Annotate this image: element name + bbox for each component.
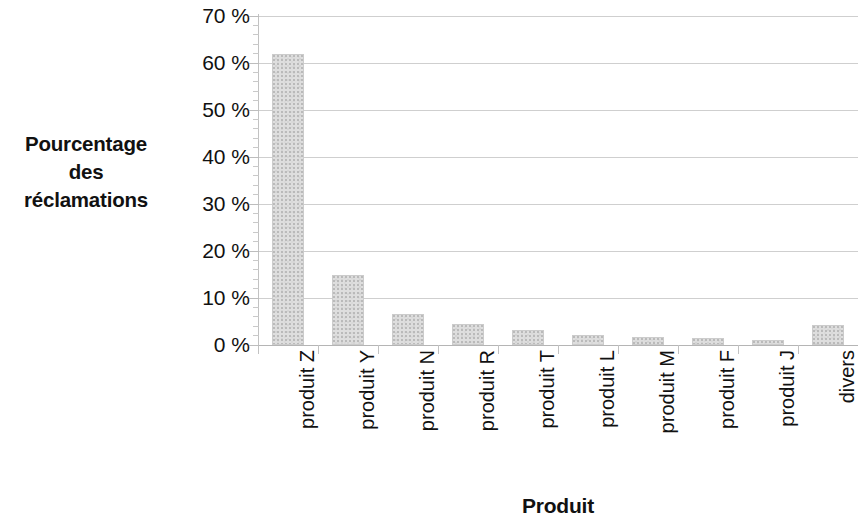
plot-area <box>258 16 858 345</box>
y-minor-tick <box>253 194 259 195</box>
y-minor-tick <box>253 316 259 317</box>
pareto-bar-chart: Pourcentage des réclamations 0 %10 %20 %… <box>0 0 858 531</box>
y-axis-title-line-3: réclamations <box>0 186 172 214</box>
bar <box>272 54 304 345</box>
y-minor-tick <box>253 175 259 176</box>
y-minor-tick <box>253 72 259 73</box>
y-minor-tick <box>253 53 259 54</box>
y-major-tick <box>249 251 259 252</box>
bar <box>812 325 844 345</box>
y-minor-tick <box>253 213 259 214</box>
y-axis-title: Pourcentage des réclamations <box>0 130 172 214</box>
y-axis-title-line-1: Pourcentage <box>0 130 172 158</box>
y-major-tick <box>249 157 259 158</box>
x-category-label: produit N <box>417 350 437 480</box>
bar <box>572 335 604 345</box>
y-minor-tick <box>253 147 259 148</box>
y-minor-tick <box>253 241 259 242</box>
y-major-tick <box>249 16 259 17</box>
y-tick-label: 20 % <box>164 240 250 261</box>
y-minor-tick <box>253 307 259 308</box>
y-tick-label: 40 % <box>164 146 250 167</box>
x-category-label: produit M <box>657 350 677 480</box>
x-category-label: produit J <box>777 350 797 480</box>
y-axis-tick-labels: 0 %10 %20 %30 %40 %50 %60 %70 % <box>160 16 250 345</box>
y-minor-tick <box>253 232 259 233</box>
y-tick-label: 30 % <box>164 193 250 214</box>
gridline <box>258 157 858 158</box>
y-tick-label: 50 % <box>164 99 250 120</box>
x-axis-title: Produit <box>258 494 858 518</box>
y-minor-tick <box>253 279 259 280</box>
gridline <box>258 110 858 111</box>
x-category-label: produit F <box>717 350 737 480</box>
y-major-tick <box>249 204 259 205</box>
gridline <box>258 63 858 64</box>
y-minor-tick <box>253 34 259 35</box>
y-major-tick <box>249 110 259 111</box>
y-minor-tick <box>253 288 259 289</box>
x-category-label: produit L <box>597 350 617 480</box>
y-minor-tick <box>253 185 259 186</box>
y-minor-tick <box>253 128 259 129</box>
bar <box>692 338 724 345</box>
x-category-label: divers <box>837 350 857 480</box>
y-tick-label: 60 % <box>164 52 250 73</box>
y-tick-label: 10 % <box>164 287 250 308</box>
y-major-tick <box>249 63 259 64</box>
y-tick-label: 70 % <box>164 5 250 26</box>
bar <box>452 324 484 345</box>
y-minor-tick <box>253 91 259 92</box>
bar <box>332 275 364 346</box>
y-minor-tick <box>253 81 259 82</box>
gridline <box>258 16 858 17</box>
y-minor-tick <box>253 25 259 26</box>
bar <box>392 314 424 345</box>
y-minor-tick <box>253 222 259 223</box>
y-tick-label: 0 % <box>164 334 250 355</box>
x-category-label: produit Y <box>357 350 377 480</box>
y-major-tick <box>249 298 259 299</box>
x-category-label: produit Z <box>297 350 317 480</box>
y-minor-tick <box>253 100 259 101</box>
x-category-label: produit R <box>477 350 497 480</box>
y-minor-tick <box>253 44 259 45</box>
y-minor-tick <box>253 260 259 261</box>
y-minor-tick <box>253 269 259 270</box>
x-axis-category-labels: produit Zproduit Yproduit Nproduit Rprod… <box>258 352 858 482</box>
x-category-label: produit T <box>537 350 557 480</box>
y-minor-tick <box>253 326 259 327</box>
y-minor-tick <box>253 166 259 167</box>
bar <box>632 337 664 345</box>
y-minor-tick <box>253 119 259 120</box>
y-minor-tick <box>253 335 259 336</box>
y-minor-tick <box>253 138 259 139</box>
y-axis-title-line-2: des <box>0 158 172 186</box>
bar <box>512 330 544 345</box>
y-major-tick <box>249 345 259 346</box>
gridline <box>258 251 858 252</box>
gridline <box>258 204 858 205</box>
